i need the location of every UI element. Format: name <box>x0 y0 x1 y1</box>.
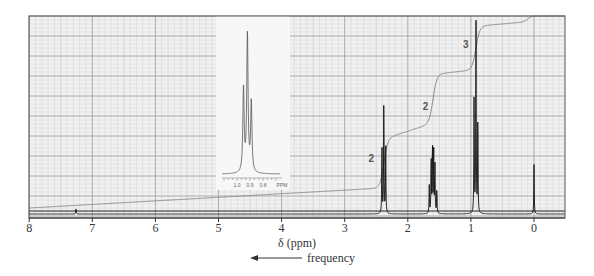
integration-value: 2 <box>368 153 374 164</box>
x-axis-ticks: 876543210 <box>26 218 537 235</box>
frequency-arrow <box>250 255 302 261</box>
integration-value: 3 <box>463 39 469 50</box>
plot-background <box>29 16 565 218</box>
inset-tick-label: PPM <box>277 182 288 188</box>
x-tick-label: 8 <box>26 221 32 235</box>
x-tick-label: 5 <box>216 221 222 235</box>
frequency-label: frequency <box>307 251 355 265</box>
inset-tick-label: 0.8 <box>260 182 267 188</box>
x-tick-label: 3 <box>342 221 348 235</box>
x-axis-title: δ (ppm) <box>278 236 316 250</box>
x-tick-label: 4 <box>279 221 285 235</box>
x-tick-label: 6 <box>152 221 158 235</box>
integration-value: 2 <box>423 101 429 112</box>
x-tick-label: 7 <box>89 221 95 235</box>
x-tick-label: 2 <box>405 221 411 235</box>
x-tick-label: 0 <box>531 221 537 235</box>
nmr-chart: 1.00.90.8PPM 223 876543210 δ (ppm) frequ… <box>0 0 594 276</box>
inset-tick-label: 1.0 <box>234 182 241 188</box>
inset-expansion: 1.00.90.8PPM <box>216 16 290 190</box>
arrow-left-icon <box>250 255 258 261</box>
x-tick-label: 1 <box>468 221 474 235</box>
inset-tick-label: 0.9 <box>247 182 254 188</box>
